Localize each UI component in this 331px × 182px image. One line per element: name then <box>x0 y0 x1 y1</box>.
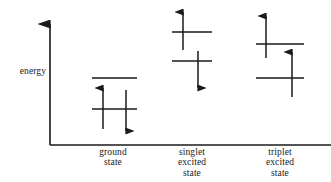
state-group-ground <box>92 78 137 131</box>
state-group-singlet-excited <box>172 12 212 88</box>
state-label-triplet-excited: triplet excited state <box>246 147 314 178</box>
state-label-ground: ground state <box>82 147 144 168</box>
y-axis-label-energy: energy <box>2 66 46 76</box>
state-group-triplet-excited <box>256 16 304 97</box>
axis-group <box>50 24 331 145</box>
state-label-singlet-excited: singlet excited state <box>161 147 223 178</box>
energy-level-diagram: energy ground state singlet excited stat… <box>0 0 331 182</box>
